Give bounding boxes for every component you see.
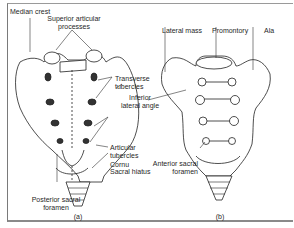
label-anterior-sacral-foramen: Anterior sacral foramen [150, 160, 198, 175]
sacrum-posterior-drawing [16, 50, 139, 206]
label-line: processes [42, 23, 106, 31]
label-line: Anterior sacral [150, 160, 198, 168]
label-line: tubercles [115, 83, 150, 91]
label-line: tubercles [110, 152, 138, 160]
label-transverse-tubercles: Transverse tubercles [115, 75, 150, 90]
label-line: foramen [28, 204, 84, 212]
label-inferior-lateral-angle: Inferior lateral angle [117, 94, 163, 109]
label-line: Posterior sacral [28, 196, 84, 204]
label-ala: Ala [264, 27, 274, 35]
label-promontory: Promontory [212, 27, 248, 35]
label-line: Articular [110, 144, 138, 152]
label-lateral-mass: Lateral mass [162, 27, 202, 35]
label-superior-articular-processes: Superior articular processes [42, 15, 106, 30]
label-line: Transverse [115, 75, 150, 83]
label-posterior-sacral-foramen: Posterior sacral foramen [28, 196, 84, 211]
label-line: lateral angle [117, 102, 163, 110]
label-line: Superior articular [42, 15, 106, 23]
caption-b: (b) [210, 213, 230, 221]
label-sacral-hiatus: Sacral hiatus [110, 168, 150, 176]
label-articular-tubercles: Articular tubercles [110, 144, 138, 159]
sacrum-illustration [0, 0, 294, 228]
label-line: foramen [150, 168, 198, 176]
caption-a: (a) [68, 213, 88, 221]
sacrum-anterior-drawing [161, 56, 270, 200]
label-line: Inferior [117, 94, 163, 102]
